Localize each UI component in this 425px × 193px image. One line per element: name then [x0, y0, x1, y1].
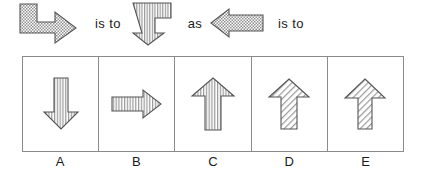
arrow-down-vertical-stripes-icon	[40, 76, 82, 132]
straight-arrow-left-stippled-icon	[209, 6, 265, 40]
relation-label-is-to-2: is to	[266, 0, 316, 46]
analogy-row: is to as	[0, 0, 425, 48]
stem-shape-b	[126, 0, 182, 48]
option-label-b: B	[98, 154, 174, 180]
arrow-up-diagonal-hatch-icon	[266, 76, 312, 132]
bent-arrow-down-striped-icon	[131, 1, 177, 47]
option-panel-a[interactable]	[23, 57, 99, 151]
option-labels-row: A B C D E	[22, 154, 404, 180]
relation-label-is-to-1: is to	[84, 0, 132, 46]
option-label-a: A	[22, 154, 98, 180]
answer-options-box	[22, 56, 404, 152]
arrow-up-vertical-stripes-icon	[189, 75, 237, 133]
stem-shape-a	[14, 0, 82, 46]
is-to-text-2: is to	[278, 16, 304, 31]
option-panel-b[interactable]	[99, 57, 175, 151]
option-panel-e[interactable]	[328, 57, 403, 151]
option-panel-d[interactable]	[252, 57, 328, 151]
option-label-c: C	[175, 154, 251, 180]
arrow-right-vertical-stripes-icon	[110, 87, 164, 121]
is-to-text-1: is to	[95, 16, 121, 31]
option-label-d: D	[251, 154, 327, 180]
arrow-up-diagonal-hatch-narrow-icon	[342, 76, 388, 132]
option-label-e: E	[328, 154, 404, 180]
bent-arrow-right-stippled-icon	[17, 2, 79, 44]
stem-shape-c	[206, 0, 268, 46]
option-panel-c[interactable]	[175, 57, 251, 151]
as-text: as	[188, 16, 203, 31]
